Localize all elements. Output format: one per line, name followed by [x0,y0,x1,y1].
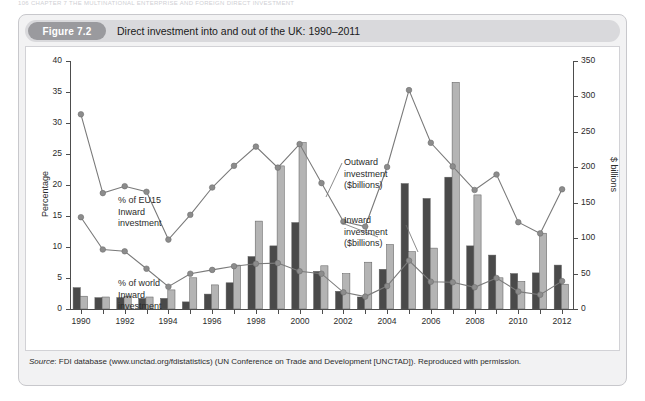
line-marker [144,189,150,195]
y-tick-left [66,278,70,279]
line-marker [275,165,281,171]
figure-header: Figure 7.2 Direct investment into and ou… [25,20,620,42]
y-tick-label-left: 40 [36,55,62,65]
y-tick-right [574,167,578,168]
x-tick [256,310,257,314]
x-tick [496,310,497,314]
x-tick-label: 1998 [236,316,276,326]
line-marker [100,190,106,196]
figure-title: Direct investment into and out of the UK… [117,20,360,42]
source-text: : FDI database (www.unctad.org/fdistatis… [54,357,521,366]
bar-inward [95,298,102,309]
bar-inward [226,283,233,309]
line-marker [78,214,84,220]
bar-outward [168,290,175,309]
line-marker [428,279,434,285]
bar-inward [73,288,80,309]
line-marker [209,185,215,191]
y-tick-right [574,238,578,239]
line-marker [319,271,325,277]
x-tick [300,310,301,314]
bar-outward [80,296,87,309]
y-tick-label-left: 35 [36,86,62,96]
line-marker [559,187,565,193]
annotation-eu15-label: % of EU15 Inward investment [118,195,162,230]
y-tick-label-left: 10 [36,241,62,251]
x-tick-label: 2004 [367,316,407,326]
bar-outward [233,265,240,309]
line-marker [450,164,456,170]
x-tick [212,310,213,314]
line-marker [494,275,500,281]
chart-panel: 0510152025303540050100150200250300350199… [25,46,620,351]
bar-inward [401,184,408,309]
line-marker [494,172,500,178]
annotation-leader-line [326,163,342,197]
y-axis-right [573,61,574,310]
x-tick [278,310,279,314]
line-marker [516,219,522,225]
line-marker [100,247,106,253]
line-marker [559,278,565,284]
y-axis-title-left: Percentage [40,171,50,217]
x-tick-label: 1996 [192,316,232,326]
line-marker [188,271,194,277]
line-marker [341,290,347,296]
bar-inward [532,273,539,309]
line-marker [166,284,172,290]
y-tick-right [574,274,578,275]
annotation-outward-label: Outward investment ($billions) [344,157,388,192]
x-tick [234,310,235,314]
line-marker [297,268,303,274]
line-marker [450,280,456,286]
y-axis-title-right: $ billions [609,157,619,192]
x-tick-label: 2000 [280,316,320,326]
bar-inward [204,294,211,309]
x-tick-label: 2010 [498,316,538,326]
bar-inward [292,223,299,309]
y-tick-left [66,216,70,217]
x-tick [453,310,454,314]
y-axis-left [70,61,71,310]
y-tick-right [574,203,578,204]
y-tick-left [66,61,70,62]
x-tick [168,310,169,314]
y-tick-label-right: 200 [581,161,611,171]
line-marker [472,285,478,291]
x-tick [81,310,82,314]
annotation-world-label: % of world Inward investment [118,278,162,313]
y-tick-left [66,309,70,310]
bar-inward [445,177,452,309]
line-marker [319,180,325,186]
line-marker [384,283,390,289]
bar-outward [387,245,394,310]
x-tick-label: 2012 [542,316,582,326]
line-marker [144,266,150,272]
x-tick-label: 1990 [61,316,101,326]
line-marker [78,112,84,118]
annotation-inward-label: Inward investment ($billions) [344,215,388,250]
x-tick-label: 2002 [323,316,363,326]
line-marker [209,267,215,273]
line-marker [231,263,237,269]
x-tick [103,310,104,314]
x-tick [365,310,366,314]
y-tick-label-left: 5 [36,272,62,282]
bar-inward [314,271,321,309]
y-tick-label-right: 0 [581,303,611,313]
line-marker [122,249,128,255]
x-tick-label: 1994 [148,316,188,326]
figure-number-badge: Figure 7.2 [28,22,106,40]
bar-outward [212,285,219,309]
y-tick-left [66,154,70,155]
x-tick [431,310,432,314]
y-tick-label-left: 30 [36,117,62,127]
x-tick [540,310,541,314]
x-tick-label: 2008 [455,316,495,326]
line-marker [253,144,259,150]
line-marker [362,294,368,300]
x-tick [475,310,476,314]
bar-outward [102,297,109,309]
y-tick-label-right: 50 [581,268,611,278]
y-tick-label-right: 250 [581,126,611,136]
